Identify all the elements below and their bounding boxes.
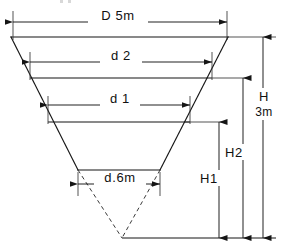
- channel-right-bank: [160, 37, 228, 170]
- diagram-canvas: D 5m d 2 d 1 d.6m: [0, 0, 284, 252]
- label-top-width: D 5m: [101, 8, 134, 23]
- dimension-depth-2: H2: [222, 78, 247, 238]
- label-bottom-width: d.6m: [104, 170, 135, 185]
- channel-cross-section-diagram: D 5m d 2 d 1 d.6m: [0, 0, 284, 252]
- dimension-depth-1: H1: [198, 122, 222, 238]
- label-water-level-2: d 2: [111, 48, 131, 63]
- channel-left-bank: [11, 37, 78, 170]
- label-depth-2: H2: [225, 145, 243, 160]
- dimension-water-level-1: d 1: [48, 91, 222, 124]
- label-water-level-1: d 1: [110, 91, 130, 106]
- label-depth-1: H1: [200, 171, 218, 186]
- scan-artifact: [60, 0, 71, 3]
- label-total-depth-value: 3m: [255, 105, 272, 119]
- dimension-top-width: D 5m: [13, 8, 227, 40]
- datum-baseline: [122, 37, 276, 238]
- dimension-total-depth: H 3m: [252, 37, 276, 238]
- label-total-depth: H: [259, 89, 269, 104]
